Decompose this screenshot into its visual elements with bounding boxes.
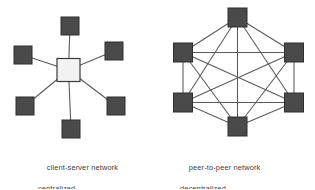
client-node-lower-right[interactable] bbox=[107, 97, 125, 115]
client-server-caption-line1: client-server network bbox=[47, 163, 118, 172]
peer-node-lower-right[interactable] bbox=[285, 93, 304, 112]
peer-to-peer-caption-line2: decentralized bbox=[180, 184, 260, 190]
server-node[interactable] bbox=[57, 59, 80, 82]
peer-node-upper-left[interactable] bbox=[174, 43, 193, 62]
peer-to-peer-diagram bbox=[174, 8, 304, 136]
client-node-upper-left[interactable] bbox=[14, 46, 32, 64]
peer-to-peer-edges bbox=[183, 18, 294, 127]
client-server-caption-line2: centralized bbox=[38, 184, 118, 190]
peer-node-top[interactable] bbox=[228, 8, 247, 27]
client-server-diagram bbox=[14, 17, 125, 138]
peer-node-lower-left[interactable] bbox=[174, 93, 193, 112]
client-node-top[interactable] bbox=[61, 17, 79, 35]
peer-node-upper-right[interactable] bbox=[285, 43, 304, 62]
client-node-upper-right[interactable] bbox=[105, 42, 123, 60]
peer-to-peer-nodes bbox=[174, 8, 304, 136]
diagram-canvas: client-server network centralized peer-t… bbox=[0, 0, 315, 189]
peer-to-peer-caption-line1: peer-to-peer network bbox=[189, 163, 261, 172]
client-server-caption: client-server network centralized bbox=[38, 152, 118, 189]
peer-to-peer-caption: peer-to-peer network decentralized bbox=[180, 152, 260, 189]
peer-node-bottom[interactable] bbox=[228, 117, 247, 136]
client-node-bottom[interactable] bbox=[62, 120, 80, 138]
client-node-lower-left[interactable] bbox=[16, 97, 34, 115]
